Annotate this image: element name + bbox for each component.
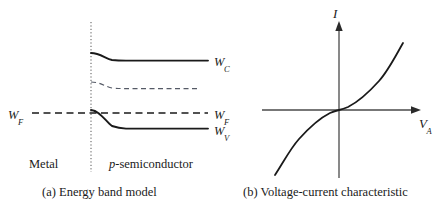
valence-band-label: WV: [214, 122, 230, 141]
panel-b-caption: (b) Voltage-current characteristic: [243, 186, 408, 199]
conduction-band-label: WC: [214, 53, 230, 72]
metal-region-label: Metal: [29, 158, 58, 171]
fermi-level-left-label: WF: [8, 106, 24, 125]
panel-a-energy-band-model: [0, 0, 440, 208]
conduction-band-curve: [91, 53, 208, 61]
voltage-axis-label: VA: [419, 115, 432, 134]
panel-b-iv-characteristic: [262, 21, 421, 178]
panel-a-caption: (a) Energy band model: [42, 186, 157, 199]
current-axis-arrowhead: [335, 21, 342, 31]
voltage-axis-arrowhead: [411, 106, 421, 113]
current-axis-label: I: [333, 5, 337, 21]
intrinsic-level-dashed-curve: [91, 82, 200, 89]
semiconductor-region-label: p-semiconductor: [109, 158, 193, 171]
figure-container: WF WC WF WV Metal p-semiconductor (a) En…: [0, 0, 440, 208]
